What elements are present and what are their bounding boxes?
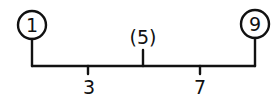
left-branch-label: 3 — [83, 76, 95, 98]
left-leaf-label: 1 — [26, 14, 38, 36]
right-leaf-label: 9 — [249, 13, 261, 35]
middle-node-label: (5) — [130, 26, 157, 48]
right-branch-label: 7 — [194, 76, 206, 98]
tree-diagram: 1 9 (5) 3 7 — [0, 0, 279, 103]
right-leaf-node: 9 — [241, 10, 269, 38]
left-leaf-node: 1 — [18, 11, 46, 39]
